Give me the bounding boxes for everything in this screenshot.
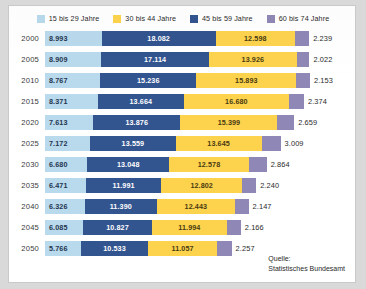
bar-segment: 18.082 xyxy=(102,31,216,46)
segment-value-label-outer: 2.864 xyxy=(271,160,290,169)
bar-segment xyxy=(227,220,241,235)
chart-row: 20456.08510.82711.9942.166 xyxy=(9,219,357,236)
bar-segment: 7.172 xyxy=(45,136,90,151)
bar-segment: 13.876 xyxy=(93,115,180,130)
bar-segment: 11.991 xyxy=(86,178,162,193)
bar-segment: 13.926 xyxy=(209,52,297,67)
legend-item-label: 15 bis 29 Jahre xyxy=(49,14,100,23)
chart-row: 20356.47111.99112.8022.240 xyxy=(9,177,357,194)
segment-value-label: 7.613 xyxy=(49,118,68,127)
legend-swatch-icon xyxy=(37,15,45,23)
segment-value-label: 15.236 xyxy=(137,76,160,85)
bar-segment: 6.326 xyxy=(45,199,85,214)
legend-swatch-icon xyxy=(190,15,198,23)
segment-value-label: 15.399 xyxy=(218,118,241,127)
legend-swatch-icon xyxy=(267,15,275,23)
segment-value-label: 12.802 xyxy=(190,181,213,190)
segment-value-label-outer: 2.166 xyxy=(245,223,264,232)
bar-segment: 12.802 xyxy=(161,178,242,193)
bar-segment: 11.994 xyxy=(152,220,228,235)
row-year-label: 2005 xyxy=(9,55,45,64)
segment-value-label-outer: 2.022 xyxy=(313,55,332,64)
segment-value-label: 6.471 xyxy=(49,181,68,190)
segment-value-label: 8.993 xyxy=(49,34,68,43)
legend-swatch-icon xyxy=(113,15,121,23)
chart-row: 20207.61313.87615.3992.659 xyxy=(9,114,357,131)
segment-value-label: 11.994 xyxy=(178,223,200,232)
bar-segment: 6.085 xyxy=(45,220,83,235)
legend-item-60-74: 60 bis 74 Jahre xyxy=(267,14,330,23)
legend-item-label: 30 bis 44 Jahre xyxy=(125,14,176,23)
stacked-bar: 8.37113.66416.680 xyxy=(45,94,304,109)
segment-value-label: 13.645 xyxy=(207,139,230,148)
row-year-label: 2035 xyxy=(9,181,45,190)
row-year-label: 2020 xyxy=(9,118,45,127)
segment-value-label: 11.057 xyxy=(171,244,193,253)
segment-value-label-outer: 2.153 xyxy=(314,76,333,85)
chart-row: 20008.99318.08212.5982.239 xyxy=(9,30,357,47)
bar-segment: 10.827 xyxy=(83,220,151,235)
segment-value-label: 6.680 xyxy=(49,160,68,169)
row-year-label: 2045 xyxy=(9,223,45,232)
bar-segment: 17.114 xyxy=(101,52,209,67)
bar-segment xyxy=(277,115,294,130)
chart-frame: 15 bis 29 Jahre 30 bis 44 Jahre 45 bis 5… xyxy=(8,5,356,283)
stacked-bar: 5.76610.53311.057 xyxy=(45,241,232,256)
bar-segment: 15.236 xyxy=(100,73,196,88)
segment-value-label: 16.680 xyxy=(225,97,248,106)
legend-item-15-29: 15 bis 29 Jahre xyxy=(37,14,100,23)
legend-item-label: 45 bis 59 Jahre xyxy=(202,14,253,23)
chart-legend: 15 bis 29 Jahre 30 bis 44 Jahre 45 bis 5… xyxy=(9,14,357,23)
bar-segment: 13.664 xyxy=(98,94,184,109)
segment-value-label: 13.876 xyxy=(125,118,148,127)
bar-segment xyxy=(289,94,304,109)
segment-value-label-outer: 2.659 xyxy=(298,118,317,127)
segment-value-label: 7.172 xyxy=(49,139,68,148)
bar-segment: 12.443 xyxy=(157,199,235,214)
row-year-label: 2040 xyxy=(9,202,45,211)
segment-value-label-outer: 2.257 xyxy=(236,244,255,253)
chart-row: 20058.90917.11413.9262.022 xyxy=(9,51,357,68)
bar-segment: 10.533 xyxy=(81,241,147,256)
bar-segment: 8.909 xyxy=(45,52,101,67)
segment-value-label: 13.559 xyxy=(122,139,145,148)
segment-value-label: 10.533 xyxy=(103,244,126,253)
segment-value-label: 12.443 xyxy=(185,202,208,211)
segment-value-label: 13.664 xyxy=(130,97,153,106)
bar-segment: 8.371 xyxy=(45,94,98,109)
segment-value-label: 8.767 xyxy=(49,76,68,85)
chart-row: 20108.76715.23615.8932.153 xyxy=(9,72,357,89)
segment-value-label: 8.909 xyxy=(49,55,68,64)
bar-segment: 6.680 xyxy=(45,157,87,172)
bar-segment: 6.471 xyxy=(45,178,86,193)
segment-value-label: 6.326 xyxy=(49,202,68,211)
bar-segment: 15.399 xyxy=(180,115,277,130)
segment-value-label: 13.926 xyxy=(242,55,265,64)
bar-segment xyxy=(217,241,231,256)
bar-segment: 13.048 xyxy=(87,157,169,172)
segment-value-label-outer: 2.240 xyxy=(260,181,279,190)
row-year-label: 2000 xyxy=(9,34,45,43)
bar-segment xyxy=(249,157,267,172)
segment-value-label: 11.390 xyxy=(110,202,132,211)
source-line-1: Quelle: xyxy=(268,254,345,264)
stacked-bar: 6.08510.82711.994 xyxy=(45,220,241,235)
segment-value-label: 17.114 xyxy=(144,55,166,64)
stacked-bar: 6.68013.04812.578 xyxy=(45,157,267,172)
stacked-bar: 7.17213.55913.645 xyxy=(45,136,281,151)
chart-row: 20158.37113.66416.6802.374 xyxy=(9,93,357,110)
bar-segment xyxy=(262,136,281,151)
bar-segment: 7.613 xyxy=(45,115,93,130)
segment-value-label: 12.578 xyxy=(198,160,221,169)
bar-segment: 13.559 xyxy=(90,136,175,151)
stacked-bar-plot: 20008.99318.08212.5982.23920058.90917.11… xyxy=(9,30,357,262)
segment-value-label: 10.827 xyxy=(106,223,129,232)
segment-value-label-outer: 2.147 xyxy=(253,202,272,211)
stacked-bar: 6.47111.99112.802 xyxy=(45,178,256,193)
legend-item-label: 60 bis 74 Jahre xyxy=(279,14,330,23)
bar-segment: 11.390 xyxy=(85,199,157,214)
legend-item-30-44: 30 bis 44 Jahre xyxy=(113,14,176,23)
bar-segment: 5.766 xyxy=(45,241,81,256)
segment-value-label-outer: 2.239 xyxy=(313,34,332,43)
bar-segment: 11.057 xyxy=(148,241,218,256)
